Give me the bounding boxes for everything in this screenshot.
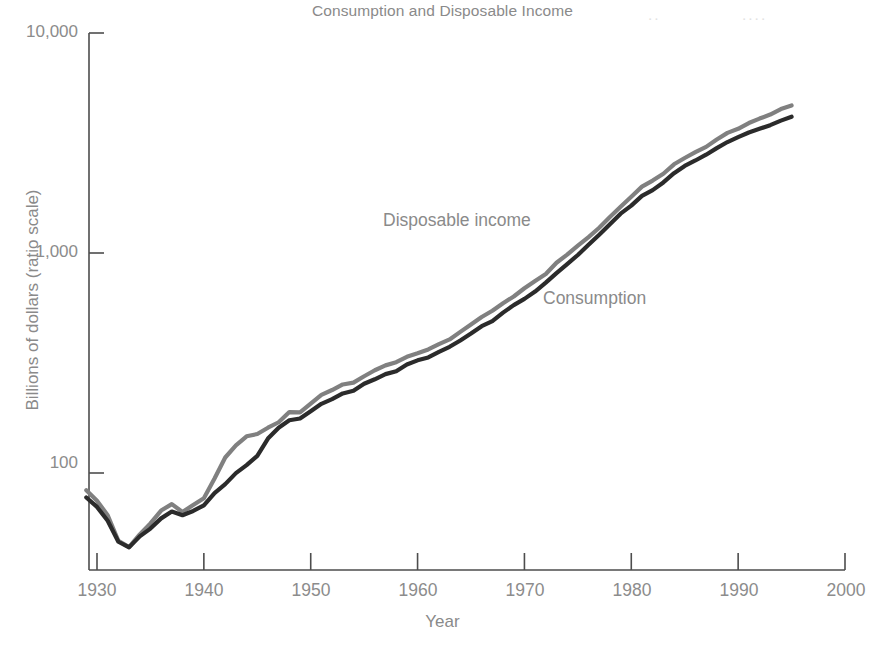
x-tick-1960: 1960 <box>383 580 453 601</box>
x-tick-2000: 2000 <box>811 580 881 601</box>
series-line-disposable-income <box>86 105 791 547</box>
y-tick-label: 1,000 <box>0 242 78 262</box>
y-axis-title: Billions of dollars (ratio scale) <box>23 135 43 465</box>
plot-area <box>0 0 885 645</box>
series-line-consumption <box>86 117 791 548</box>
x-tick-1950: 1950 <box>276 580 346 601</box>
x-tick-1940: 1940 <box>169 580 239 601</box>
scan-artifact-icon: .... <box>742 6 767 24</box>
x-tick-1980: 1980 <box>597 580 667 601</box>
x-tick-1990: 1990 <box>704 580 774 601</box>
x-tick-1970: 1970 <box>490 580 560 601</box>
scan-artifact-icon: .. <box>648 6 661 24</box>
y-tick-label: 10,000 <box>0 22 78 42</box>
x-axis-title: Year <box>0 612 885 632</box>
series-label-disposable-income: Disposable income <box>383 210 531 231</box>
y-tick-label: 100 <box>0 453 78 473</box>
series-label-consumption: Consumption <box>543 288 646 309</box>
x-tick-marks <box>97 553 845 570</box>
y-tick-marks <box>89 33 104 473</box>
axis-lines <box>89 33 845 570</box>
chart-figure: Consumption and Disposable Income .. ...… <box>0 0 885 645</box>
series-lines <box>86 105 791 547</box>
x-tick-1930: 1930 <box>62 580 132 601</box>
